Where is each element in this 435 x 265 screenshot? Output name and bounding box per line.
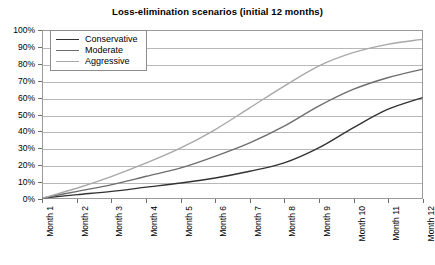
x-tick-mark	[146, 199, 147, 203]
x-tick-mark	[354, 199, 355, 203]
x-tick-mark	[42, 199, 43, 203]
x-tick-label: Month 7	[254, 206, 263, 237]
y-tick-label: 0%	[23, 195, 35, 204]
x-tick-label: Month 12	[427, 206, 435, 241]
x-tick-mark	[284, 199, 285, 203]
y-tick-label: 90%	[18, 43, 35, 52]
series-line-conservative	[43, 98, 422, 198]
y-axis: 0%10%20%30%40%50%60%70%80%90%100%	[0, 30, 42, 200]
y-tick-label: 70%	[18, 76, 35, 85]
y-tick-label: 50%	[18, 110, 35, 119]
y-tick-label: 10%	[18, 178, 35, 187]
legend-item-moderate[interactable]: Moderate	[56, 45, 138, 56]
x-tick-mark	[77, 199, 78, 203]
legend-item-aggressive[interactable]: Aggressive	[56, 56, 138, 67]
x-tick-label: Month 5	[185, 206, 194, 237]
y-tick-label: 80%	[18, 60, 35, 69]
x-tick-mark	[111, 199, 112, 203]
y-tick-label: 20%	[18, 161, 35, 170]
x-tick-label: Month 6	[219, 206, 228, 237]
y-tick-label: 40%	[18, 127, 35, 136]
x-axis: Month 1Month 2Month 3Month 4Month 5Month…	[42, 199, 423, 265]
y-tick-label: 60%	[18, 93, 35, 102]
x-tick-mark	[250, 199, 251, 203]
x-tick-mark	[319, 199, 320, 203]
legend-label: Aggressive	[85, 56, 130, 67]
legend-swatch-icon	[56, 39, 79, 40]
x-tick-label: Month 2	[81, 206, 90, 237]
x-tick-mark	[423, 199, 424, 203]
series-line-moderate	[43, 69, 422, 198]
x-tick-label: Month 4	[150, 206, 159, 237]
x-tick-mark	[215, 199, 216, 203]
legend-item-conservative[interactable]: Conservative	[56, 34, 138, 45]
x-tick-label: Month 10	[358, 206, 367, 241]
x-tick-label: Month 8	[288, 206, 297, 237]
x-tick-mark	[388, 199, 389, 203]
y-tick-label: 30%	[18, 144, 35, 153]
legend-label: Moderate	[85, 45, 123, 56]
chart-legend: ConservativeModerateAggressive	[50, 30, 147, 71]
legend-swatch-icon	[56, 50, 79, 51]
x-tick-label: Month 9	[323, 206, 332, 237]
legend-label: Conservative	[85, 34, 138, 45]
chart-title: Loss-elimination scenarios (initial 12 m…	[0, 6, 435, 17]
x-tick-mark	[181, 199, 182, 203]
x-tick-label: Month 1	[46, 206, 55, 237]
x-tick-label: Month 11	[392, 206, 401, 241]
legend-swatch-icon	[56, 61, 79, 62]
x-tick-label: Month 3	[115, 206, 124, 237]
y-tick-label: 100%	[13, 26, 35, 35]
chart-container: Loss-elimination scenarios (initial 12 m…	[0, 0, 435, 265]
